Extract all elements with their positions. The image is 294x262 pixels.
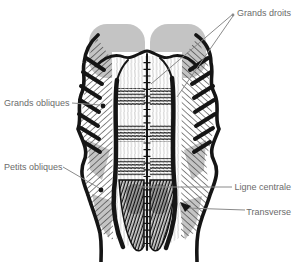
label-petits-obliques: Petits obliques xyxy=(4,162,63,173)
label-transverse: Transverse xyxy=(246,207,291,218)
abdominal-muscles-illustration xyxy=(0,0,294,262)
label-grands-obliques: Grands obliques xyxy=(4,98,70,109)
figure-canvas: Grands droits Grands obliques Petits obl… xyxy=(0,0,294,262)
label-grands-droits: Grands droits xyxy=(237,8,291,19)
label-ligne-centrale: Ligne centrale xyxy=(234,182,291,193)
